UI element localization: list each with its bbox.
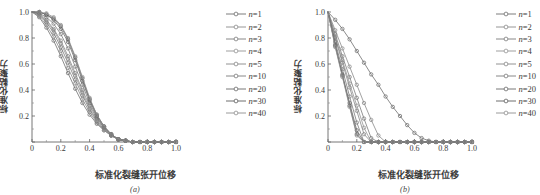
chart-panel-b: 00.20.40.60.81.00.20.40.60.81.0 标准化黏聚力 标… bbox=[270, 0, 540, 195]
legend-item-label: n=40 bbox=[518, 108, 536, 118]
legend-marker-icon bbox=[495, 47, 517, 55]
svg-text:1.0: 1.0 bbox=[171, 144, 181, 153]
legend-marker-icon bbox=[495, 35, 517, 43]
legend-item[interactable]: n=4 bbox=[225, 45, 266, 57]
y-axis-title-b: 标准化黏聚力 bbox=[292, 0, 306, 195]
legend-item[interactable]: n=2 bbox=[225, 20, 266, 32]
svg-text:0.8: 0.8 bbox=[142, 144, 152, 153]
chart-panel-a: 00.20.40.60.81.00.20.40.60.81.0 标准化黏聚力 标… bbox=[0, 0, 270, 195]
legend-item[interactable]: n=10 bbox=[495, 70, 536, 82]
legend-item[interactable]: n=40 bbox=[225, 107, 266, 119]
legend-item-label: n=3 bbox=[518, 34, 531, 44]
svg-text:0.2: 0.2 bbox=[315, 112, 325, 121]
legend-marker-icon bbox=[495, 85, 517, 93]
legend-item[interactable]: n=3 bbox=[495, 33, 536, 45]
legend-item[interactable]: n=20 bbox=[225, 82, 266, 94]
legend-item-label: n=20 bbox=[518, 84, 536, 94]
legend-a: n=1n=2n=3n=4n=5n=10n=20n=30n=40 bbox=[225, 8, 266, 120]
legend-marker-icon bbox=[225, 47, 247, 55]
legend-item-label: n=30 bbox=[248, 96, 266, 106]
legend-item-label: n=10 bbox=[518, 71, 536, 81]
y-axis-title-a: 标准化黏聚力 bbox=[0, 0, 12, 195]
subfigure-label-a: (a) bbox=[0, 185, 270, 194]
x-axis-title-b: 标准化裂缝张开位移 bbox=[270, 168, 540, 181]
legend-item-label: n=1 bbox=[248, 9, 261, 19]
legend-item[interactable]: n=30 bbox=[495, 95, 536, 107]
legend-marker-icon bbox=[225, 35, 247, 43]
svg-text:0.4: 0.4 bbox=[85, 144, 95, 153]
legend-item-label: n=2 bbox=[518, 22, 531, 32]
legend-b: n=1n=2n=3n=4n=5n=10n=20n=30n=40 bbox=[495, 8, 536, 120]
svg-text:0.2: 0.2 bbox=[352, 144, 362, 153]
svg-text:0.2: 0.2 bbox=[56, 144, 66, 153]
legend-item[interactable]: n=5 bbox=[495, 58, 536, 70]
legend-marker-icon bbox=[495, 10, 517, 18]
svg-text:0.4: 0.4 bbox=[315, 86, 325, 95]
legend-item-label: n=30 bbox=[518, 96, 536, 106]
legend-item-label: n=4 bbox=[248, 46, 261, 56]
legend-marker-icon bbox=[225, 97, 247, 105]
svg-text:0.6: 0.6 bbox=[409, 144, 419, 153]
legend-marker-icon bbox=[495, 72, 517, 80]
svg-text:0: 0 bbox=[326, 144, 330, 153]
svg-text:0.4: 0.4 bbox=[381, 144, 391, 153]
legend-marker-icon bbox=[495, 97, 517, 105]
svg-text:0: 0 bbox=[30, 144, 34, 153]
legend-item-label: n=2 bbox=[248, 22, 261, 32]
legend-marker-icon bbox=[225, 72, 247, 80]
x-axis-title-a: 标准化裂缝张开位移 bbox=[0, 168, 270, 181]
legend-item[interactable]: n=4 bbox=[495, 45, 536, 57]
svg-text:0.8: 0.8 bbox=[315, 34, 325, 43]
svg-text:0.6: 0.6 bbox=[113, 144, 123, 153]
svg-text:0.8: 0.8 bbox=[438, 144, 448, 153]
legend-item[interactable]: n=10 bbox=[225, 70, 266, 82]
legend-item[interactable]: n=3 bbox=[225, 33, 266, 45]
legend-item-label: n=4 bbox=[518, 46, 531, 56]
svg-text:0.4: 0.4 bbox=[19, 86, 29, 95]
legend-item[interactable]: n=20 bbox=[495, 82, 536, 94]
legend-item[interactable]: n=1 bbox=[225, 8, 266, 20]
subfigure-label-b: (b) bbox=[270, 185, 540, 194]
legend-item-label: n=20 bbox=[248, 84, 266, 94]
legend-item[interactable]: n=5 bbox=[225, 58, 266, 70]
legend-item-label: n=40 bbox=[248, 108, 266, 118]
legend-marker-icon bbox=[495, 60, 517, 68]
legend-item[interactable]: n=30 bbox=[225, 95, 266, 107]
legend-item-label: n=5 bbox=[518, 59, 531, 69]
svg-text:0.6: 0.6 bbox=[315, 60, 325, 69]
svg-text:0.2: 0.2 bbox=[19, 112, 29, 121]
legend-item-label: n=1 bbox=[518, 9, 531, 19]
legend-item[interactable]: n=1 bbox=[495, 8, 536, 20]
svg-text:0.8: 0.8 bbox=[19, 34, 29, 43]
legend-marker-icon bbox=[495, 109, 517, 117]
legend-item-label: n=10 bbox=[248, 71, 266, 81]
svg-text:1.0: 1.0 bbox=[19, 8, 29, 17]
figure-container: 00.20.40.60.81.00.20.40.60.81.0 标准化黏聚力 标… bbox=[0, 0, 540, 195]
legend-marker-icon bbox=[225, 10, 247, 18]
legend-marker-icon bbox=[495, 23, 517, 31]
svg-text:0.6: 0.6 bbox=[19, 60, 29, 69]
legend-item[interactable]: n=40 bbox=[495, 107, 536, 119]
legend-marker-icon bbox=[225, 23, 247, 31]
legend-marker-icon bbox=[225, 60, 247, 68]
legend-marker-icon bbox=[225, 85, 247, 93]
legend-item[interactable]: n=2 bbox=[495, 20, 536, 32]
legend-item-label: n=5 bbox=[248, 59, 261, 69]
svg-text:1.0: 1.0 bbox=[315, 8, 325, 17]
legend-item-label: n=3 bbox=[248, 34, 261, 44]
svg-text:1.0: 1.0 bbox=[467, 144, 477, 153]
legend-marker-icon bbox=[225, 109, 247, 117]
